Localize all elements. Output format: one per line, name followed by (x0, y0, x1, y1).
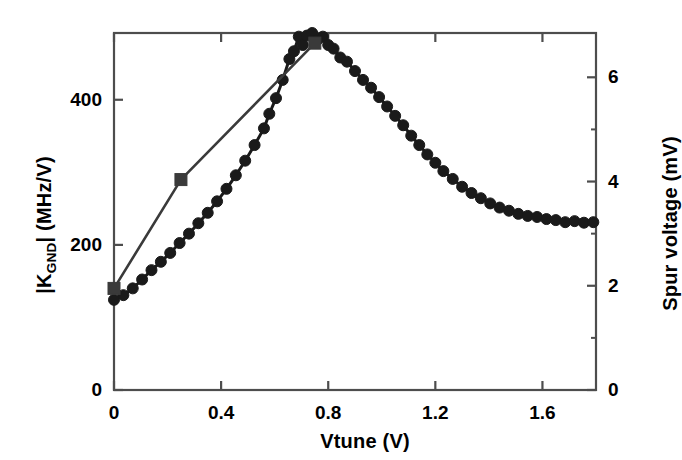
data-point-marker (230, 170, 241, 181)
data-point-marker (309, 37, 321, 49)
data-point-marker (382, 101, 393, 112)
series-2 (108, 37, 321, 294)
x-tick-label: 1.6 (529, 402, 555, 424)
data-point-marker (137, 274, 148, 285)
data-point-marker (174, 238, 185, 249)
data-point-marker (193, 218, 204, 229)
data-point-marker (406, 130, 417, 141)
x-tick-label: 0.8 (315, 402, 341, 424)
data-point-marker (457, 181, 468, 192)
y-right-tick-label: 2 (608, 275, 619, 297)
data-point-marker (350, 66, 361, 77)
data-point-marker (258, 123, 269, 134)
data-point-marker (183, 228, 194, 239)
data-point-marker (264, 108, 275, 119)
y-left-title-subscript: GND (44, 243, 59, 274)
y-right-tick-label: 6 (608, 66, 619, 88)
y-left-tick-label: 400 (70, 89, 102, 111)
y-axis-right-title: Spur voltage (mV) (659, 74, 682, 374)
x-tick-label: 1.2 (422, 402, 448, 424)
data-point-marker (212, 196, 223, 207)
y-left-title-pre: |K (33, 273, 55, 293)
data-series-group (108, 28, 599, 306)
data-point-marker (438, 166, 449, 177)
data-point-marker (146, 265, 157, 276)
data-point-marker (390, 110, 401, 121)
data-point-marker (155, 256, 166, 267)
y-left-title-post: | (MHz/V) (33, 156, 55, 242)
x-tick-label: 0 (109, 402, 120, 424)
y-left-tick-label: 200 (70, 234, 102, 256)
data-point-marker (341, 56, 352, 67)
data-point-marker (430, 157, 441, 168)
data-point-marker (398, 120, 409, 131)
data-point-marker (271, 93, 282, 104)
y-left-tick-label: 0 (91, 379, 102, 401)
x-axis-title: Vtune (V) (0, 430, 672, 453)
data-point-marker (422, 149, 433, 160)
data-point-marker (588, 217, 599, 228)
series-1 (109, 28, 599, 306)
data-point-marker (374, 92, 385, 103)
data-point-marker (447, 173, 458, 184)
y-right-tick-label: 4 (608, 171, 619, 193)
data-point-marker (202, 207, 213, 218)
y-right-tick-label: 0 (608, 379, 619, 401)
data-point-marker (127, 283, 138, 294)
data-point-marker (240, 155, 251, 166)
data-point-marker (165, 247, 176, 258)
x-tick-label: 0.4 (208, 402, 234, 424)
data-point-marker (221, 183, 232, 194)
y-axis-left-title: |KGND| (MHz/V) (33, 75, 59, 375)
data-point-marker (108, 282, 120, 294)
data-point-marker (366, 82, 377, 93)
data-point-marker (175, 174, 187, 186)
data-point-marker (414, 140, 425, 151)
data-point-marker (249, 140, 260, 151)
